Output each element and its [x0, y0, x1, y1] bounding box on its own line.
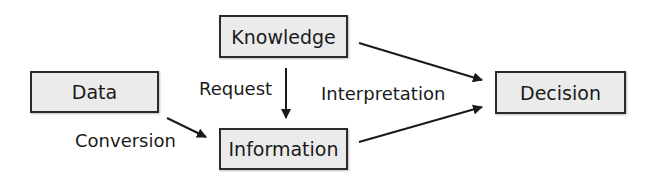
node-decision-label: Decision: [520, 82, 601, 104]
node-knowledge-label: Knowledge: [231, 26, 335, 48]
node-data-label: Data: [72, 81, 117, 103]
edge-label-interpretation: Interpretation: [321, 83, 445, 104]
node-information-label: Information: [229, 138, 339, 160]
node-data: Data: [30, 71, 159, 113]
node-decision: Decision: [495, 71, 626, 114]
edge-label-conversion: Conversion: [75, 130, 176, 151]
edge-label-request: Request: [199, 78, 272, 99]
node-information: Information: [219, 128, 348, 170]
node-knowledge: Knowledge: [219, 15, 348, 58]
arrow-information-to-decision: [359, 107, 482, 142]
arrow-knowledge-to-decision: [359, 43, 482, 80]
